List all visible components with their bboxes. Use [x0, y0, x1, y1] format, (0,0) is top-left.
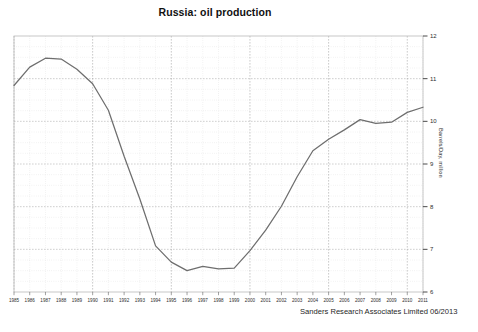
x-axis-tick-label: 2010 [402, 298, 413, 303]
y-axis-tick-label: 9 [430, 161, 434, 167]
y-axis: 6789101112 [423, 33, 437, 295]
x-axis-tick-label: 1986 [25, 298, 36, 303]
x-axis-tick-label: 1985 [9, 298, 20, 303]
x-axis-tick-label: 1998 [213, 298, 224, 303]
x-axis-tick-label: 1990 [88, 298, 99, 303]
y-axis-tick-label: 7 [430, 246, 434, 252]
x-axis-tick-label: 2008 [371, 298, 382, 303]
x-axis-tick-label: 2005 [323, 298, 334, 303]
x-axis-tick-label: 1988 [56, 298, 67, 303]
y-axis-title: Barrels/Day, million [438, 128, 444, 218]
x-axis-tick-label: 1995 [166, 298, 177, 303]
source-credit: Sanders Research Associates Limited 06/2… [300, 307, 457, 316]
chart-plot-area: 1985198619871988198919901991199219931994… [0, 0, 478, 332]
x-axis: 1985198619871988198919901991199219931994… [9, 292, 428, 303]
x-axis-tick-label: 1989 [72, 298, 83, 303]
x-axis-tick-label: 1999 [229, 298, 240, 303]
x-axis-tick-label: 1996 [182, 298, 193, 303]
x-axis-tick-label: 2007 [355, 298, 366, 303]
chart-container: Russia: oil production 19851986198719881… [0, 0, 478, 332]
x-axis-tick-label: 1997 [198, 298, 209, 303]
x-axis-tick-label: 1987 [40, 298, 51, 303]
y-axis-tick-label: 12 [430, 33, 437, 39]
x-axis-tick-label: 1992 [119, 298, 130, 303]
y-axis-tick-label: 6 [430, 289, 434, 295]
x-axis-tick-label: 1991 [103, 298, 114, 303]
x-axis-tick-label: 1994 [150, 298, 161, 303]
y-axis-tick-label: 11 [430, 76, 437, 82]
x-axis-tick-label: 2004 [308, 298, 319, 303]
x-axis-tick-label: 2006 [339, 298, 350, 303]
y-axis-tick-label: 10 [430, 118, 437, 124]
x-axis-tick-label: 1993 [135, 298, 146, 303]
x-axis-tick-label: 2009 [386, 298, 397, 303]
x-axis-tick-label: 2001 [261, 298, 272, 303]
x-axis-tick-label: 2000 [245, 298, 256, 303]
y-axis-tick-label: 8 [430, 204, 434, 210]
x-axis-tick-label: 2003 [292, 298, 303, 303]
x-axis-tick-label: 2002 [276, 298, 287, 303]
x-axis-tick-label: 2011 [418, 298, 428, 303]
